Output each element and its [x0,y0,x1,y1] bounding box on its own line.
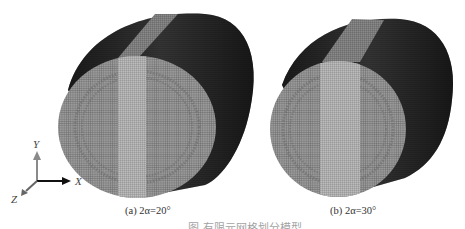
panel-a-value: 2α=20° [139,205,170,216]
panel-b-label: (b) 2α=30° [330,205,376,216]
z-axis-arrow [26,181,37,191]
panel-a-prefix: (a) [125,205,137,216]
cylinder-model-b [270,19,453,205]
panel-a-label: (a) 2α=20° [125,205,171,216]
cylinder-model-a [58,14,254,200]
coordinate-axes-triad [21,151,71,196]
mesh-models-canvas [0,0,465,229]
panel-b-value: 2α=30° [345,205,376,216]
mesh-figure: Y X Z (a) 2α=20° (b) 2α=30° 图 有限元网格划分模型 [0,0,465,229]
panel-b-prefix: (b) [330,205,342,216]
z-axis-label: Z [11,193,17,205]
x-axis-label: X [75,175,82,187]
figure-caption: 图 有限元网格划分模型 [95,222,395,229]
y-axis-label: Y [33,138,39,150]
